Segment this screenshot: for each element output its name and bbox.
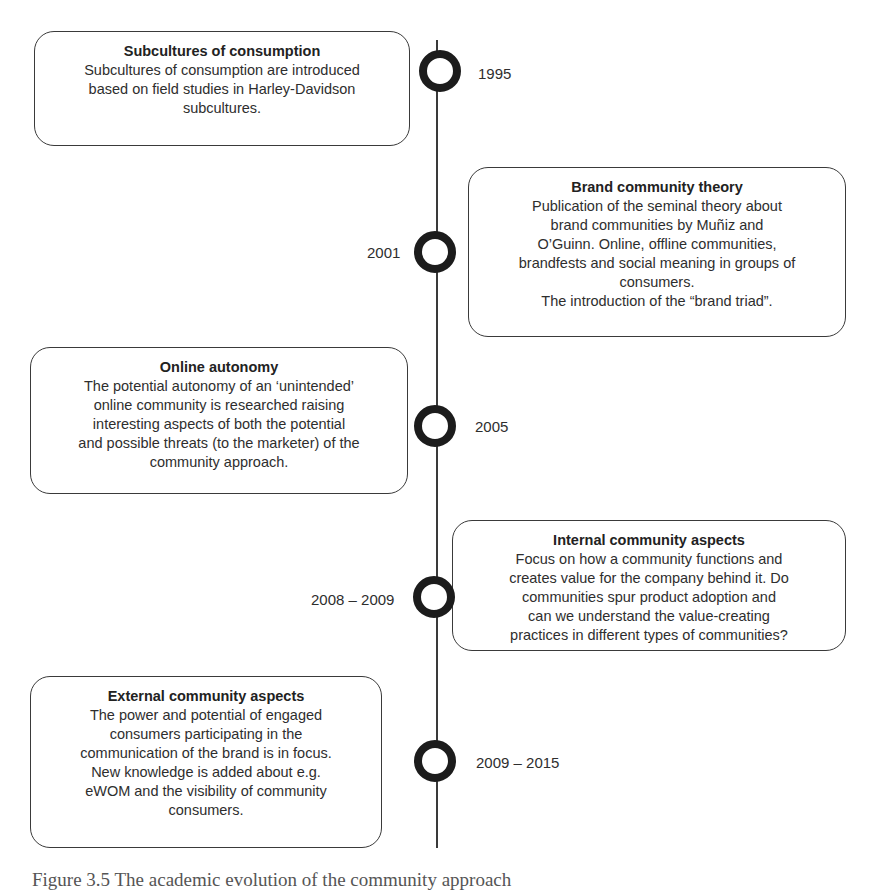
event-year: 2001 xyxy=(367,244,400,261)
event-card-2001: Brand community theory Publication of th… xyxy=(468,167,846,337)
event-title: Brand community theory xyxy=(479,178,835,197)
timeline-node-icon xyxy=(414,740,456,782)
event-card-2005: Online autonomy The potential autonomy o… xyxy=(30,347,408,494)
event-year: 2005 xyxy=(475,418,508,435)
event-description: Subcultures of consumption are introduce… xyxy=(45,61,399,118)
event-title: Internal community aspects xyxy=(463,531,835,550)
figure-caption: Figure 3.5 The academic evolution of the… xyxy=(32,869,511,891)
event-description: Focus on how a community functions and c… xyxy=(463,550,835,645)
event-year: 1995 xyxy=(478,65,511,82)
event-year: 2008 – 2009 xyxy=(311,591,394,608)
timeline-node-icon xyxy=(419,50,461,92)
timeline-node-icon xyxy=(414,405,456,447)
event-title: Online autonomy xyxy=(41,358,397,377)
timeline-node-icon xyxy=(413,576,455,618)
event-card-2008-2009: Internal community aspects Focus on how … xyxy=(452,520,846,651)
event-description: Publication of the seminal theory about … xyxy=(479,197,835,311)
event-title: External community aspects xyxy=(41,687,371,706)
event-card-1995: Subcultures of consumption Subcultures o… xyxy=(34,31,410,146)
event-card-2009-2015: External community aspects The power and… xyxy=(30,676,382,848)
event-description: The power and potential of engaged consu… xyxy=(41,706,371,820)
timeline-node-icon xyxy=(414,231,456,273)
event-description: The potential autonomy of an ‘unintended… xyxy=(41,377,397,472)
event-year: 2009 – 2015 xyxy=(476,754,559,771)
event-title: Subcultures of consumption xyxy=(45,42,399,61)
